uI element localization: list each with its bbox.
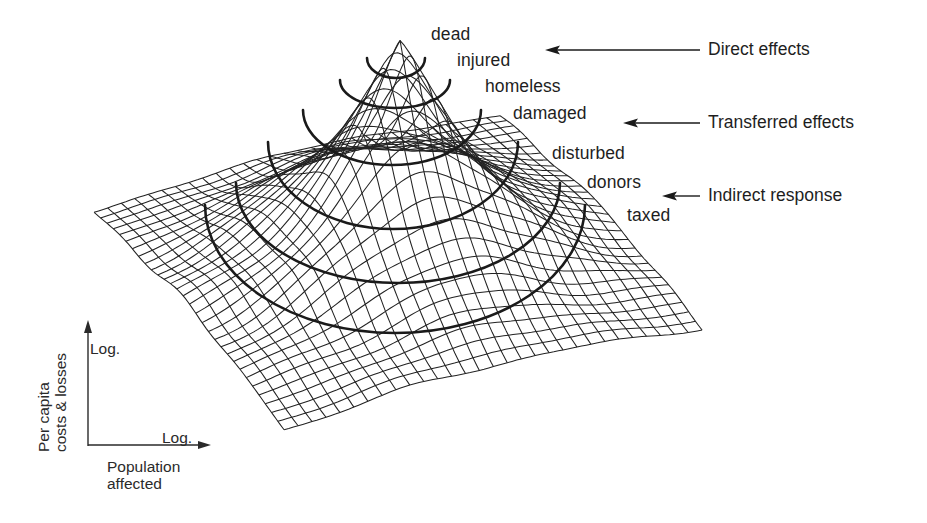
label-homeless: homeless (485, 78, 561, 96)
mesh-line-v (176, 187, 368, 402)
mesh-line-v (189, 182, 382, 395)
y-axis-arrow-icon (84, 320, 92, 333)
contour-ring-disturbed (236, 183, 560, 283)
label-donors: donors (587, 174, 641, 192)
label-taxed: taxed (627, 207, 670, 225)
x-axis-title: Population affected (107, 459, 180, 492)
y-axis-scale-label: Log. (90, 341, 120, 358)
mesh-line-v (243, 150, 437, 379)
x-axis-arrow-icon (198, 441, 211, 449)
x-axis-scale-label: Log. (162, 430, 192, 447)
mesh-line-u (265, 302, 682, 404)
label-damaged: damaged (513, 105, 587, 123)
label-injured: injured (457, 52, 510, 70)
y-axis-title: Per capita costs & losses (36, 353, 69, 452)
x-axis-title-line2: affected (107, 476, 180, 493)
x-axis-title-line1: Population (107, 459, 180, 476)
mesh-line-v (216, 173, 410, 385)
mesh-lines (94, 41, 702, 430)
label-disturbed: disturbed (552, 145, 625, 163)
mesh-line-u (278, 321, 696, 421)
y-axis-title-line1: Per capita (36, 353, 53, 452)
mesh-line-v (162, 190, 354, 407)
mesh-line-v (121, 203, 312, 421)
mesh-line-v (297, 41, 493, 367)
label-transferred-effects: Transferred effects (708, 114, 854, 132)
mesh-line-u (240, 256, 655, 369)
wireframe-surface (0, 0, 927, 523)
label-indirect-response: Indirect response (708, 187, 842, 205)
label-direct-effects: Direct effects (708, 41, 810, 59)
disaster-impact-diagram: dead injured homeless damaged disturbed … (0, 0, 927, 523)
label-dead: dead (431, 26, 470, 44)
mesh-line-u (284, 330, 702, 430)
mesh-line-u (151, 139, 561, 270)
y-axis-title-line2: costs & losses (53, 353, 70, 452)
